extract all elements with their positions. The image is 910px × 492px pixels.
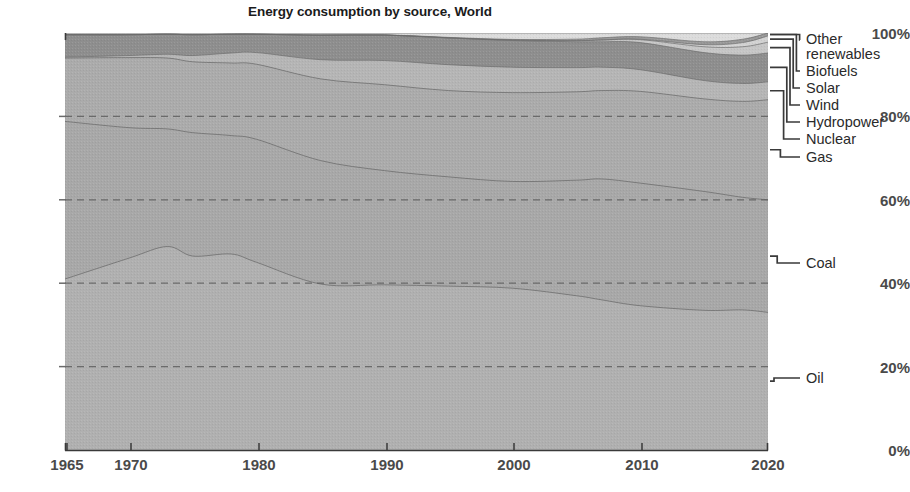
legend-label-hydropower[interactable]: Hydropower [806, 115, 884, 130]
leader-line-gas [770, 150, 800, 157]
leader-line-wind [770, 48, 800, 105]
legend-label-solar[interactable]: Solar [806, 81, 840, 96]
texture-overlay [65, 33, 768, 450]
leader-line-biofuels [770, 35, 800, 72]
legend-label-other-renewables[interactable]: Other renewables [806, 32, 880, 62]
legend-label-coal[interactable]: Coal [806, 256, 836, 271]
plot-area [0, 0, 910, 492]
legend-leader-lines [770, 35, 800, 382]
legend-label-gas[interactable]: Gas [806, 150, 833, 165]
y-tick-marks [59, 116, 66, 366]
leader-line-solar [770, 39, 800, 88]
chart-container: Energy consumption by source, World 100%… [0, 0, 910, 492]
leader-line-oil [770, 378, 800, 381]
legend-label-biofuels[interactable]: Biofuels [806, 64, 858, 79]
legend-label-nuclear[interactable]: Nuclear [806, 132, 856, 147]
leader-line-coal [770, 256, 800, 263]
legend-label-wind[interactable]: Wind [806, 98, 839, 113]
leader-line-nuclear [770, 91, 800, 139]
legend-text-renewables: renewables [806, 46, 880, 62]
legend-text-other: Other [806, 31, 842, 47]
leader-line-hydropower [770, 67, 800, 122]
legend-label-oil[interactable]: Oil [806, 371, 824, 386]
